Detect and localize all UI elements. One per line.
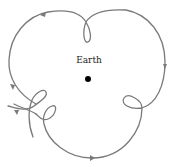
direction-arrow-icon xyxy=(90,155,95,161)
orbit-diagram xyxy=(0,0,172,167)
direction-arrow-icon xyxy=(10,84,15,90)
earth-label: Earth xyxy=(74,55,104,65)
direction-arrow-icon xyxy=(163,64,167,69)
earth-dot xyxy=(85,76,91,82)
direction-arrow-icon xyxy=(14,110,19,115)
